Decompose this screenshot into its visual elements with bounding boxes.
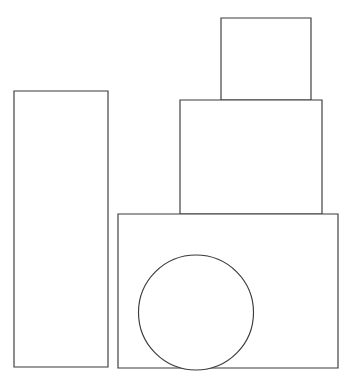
left-tall-rectangle [14,91,108,367]
middle-rectangle [180,100,322,214]
shapes-diagram [0,0,351,386]
figure-canvas [0,0,351,386]
top-small-rectangle [221,18,311,100]
circle [139,255,254,370]
